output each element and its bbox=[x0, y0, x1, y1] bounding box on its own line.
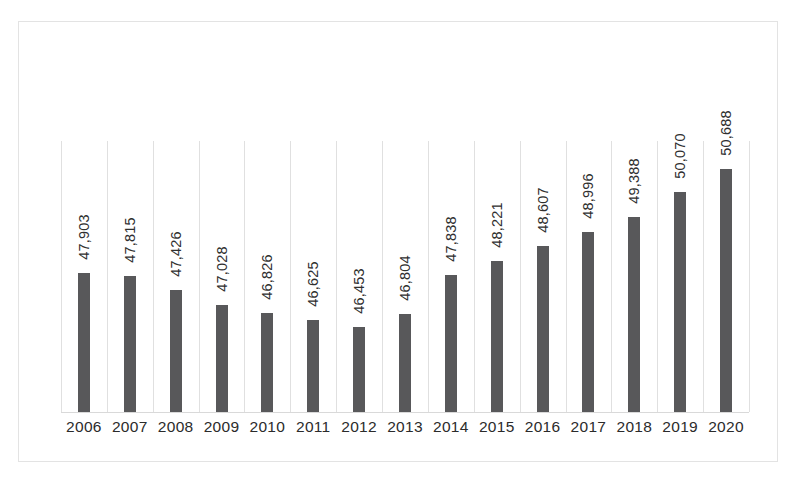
bar-group[interactable]: 48,221 bbox=[474, 141, 520, 412]
bar[interactable] bbox=[216, 305, 228, 412]
bar-group[interactable]: 48,607 bbox=[520, 141, 566, 412]
gridline bbox=[749, 141, 750, 412]
chart-frame: 47,90347,81547,42647,02846,82646,62546,4… bbox=[18, 21, 778, 462]
x-axis-label: 2006 bbox=[61, 418, 107, 436]
bar-group[interactable]: 50,070 bbox=[657, 141, 703, 412]
bar-group[interactable]: 46,826 bbox=[244, 141, 290, 412]
bar[interactable] bbox=[537, 246, 549, 412]
bar-group[interactable]: 46,453 bbox=[336, 141, 382, 412]
bar[interactable] bbox=[445, 275, 457, 412]
bar[interactable] bbox=[170, 290, 182, 412]
x-axis-label: 2020 bbox=[703, 418, 749, 436]
chart-screenshot: 47,90347,81547,42647,02846,82646,62546,4… bbox=[0, 0, 799, 489]
plot-area: 47,90347,81547,42647,02846,82646,62546,4… bbox=[61, 141, 749, 412]
x-axis-label: 2009 bbox=[199, 418, 245, 436]
bar[interactable] bbox=[261, 313, 273, 412]
bar-group[interactable]: 50,688 bbox=[703, 141, 749, 412]
bar-group[interactable]: 47,815 bbox=[107, 141, 153, 412]
bar[interactable] bbox=[720, 169, 732, 412]
category-axis-line bbox=[61, 412, 749, 413]
bar[interactable] bbox=[628, 217, 640, 412]
x-axis-label: 2012 bbox=[336, 418, 382, 436]
bar-group[interactable]: 49,388 bbox=[611, 141, 657, 412]
bar[interactable] bbox=[491, 261, 503, 412]
x-axis-label: 2008 bbox=[153, 418, 199, 436]
bar-group[interactable]: 47,028 bbox=[199, 141, 245, 412]
bar[interactable] bbox=[124, 276, 136, 412]
x-axis-label: 2007 bbox=[107, 418, 153, 436]
bar[interactable] bbox=[582, 232, 594, 412]
x-axis-label: 2014 bbox=[428, 418, 474, 436]
x-axis-label: 2017 bbox=[566, 418, 612, 436]
x-axis-label: 2015 bbox=[474, 418, 520, 436]
bar[interactable] bbox=[674, 192, 686, 412]
bar[interactable] bbox=[353, 327, 365, 412]
bar[interactable] bbox=[307, 320, 319, 412]
x-axis-label: 2011 bbox=[290, 418, 336, 436]
x-axis-label-row: 2006200720082009201020112012201320142015… bbox=[61, 418, 749, 444]
x-axis-label: 2016 bbox=[520, 418, 566, 436]
x-axis-label: 2010 bbox=[244, 418, 290, 436]
bar-group[interactable]: 47,903 bbox=[61, 141, 107, 412]
bar-group[interactable]: 48,996 bbox=[566, 141, 612, 412]
bar-group[interactable]: 46,625 bbox=[290, 141, 336, 412]
x-axis-label: 2013 bbox=[382, 418, 428, 436]
x-axis-label: 2018 bbox=[611, 418, 657, 436]
bar-group[interactable]: 47,426 bbox=[153, 141, 199, 412]
bar-group[interactable]: 47,838 bbox=[428, 141, 474, 412]
bar[interactable] bbox=[78, 273, 90, 412]
x-axis-label: 2019 bbox=[657, 418, 703, 436]
bar-group[interactable]: 46,804 bbox=[382, 141, 428, 412]
bar[interactable] bbox=[399, 314, 411, 412]
